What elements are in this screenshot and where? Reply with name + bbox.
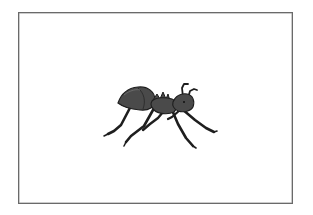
ant-icon: [0, 0, 313, 215]
ant-eye: [183, 101, 185, 103]
ant-leg: [182, 109, 214, 132]
ant-abdomen: [118, 87, 155, 110]
ant-head: [173, 94, 194, 112]
